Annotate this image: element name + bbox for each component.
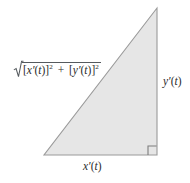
- y-exponent: 2: [95, 63, 99, 71]
- radical-sign-icon: [14, 60, 22, 77]
- radicand-expression: [x′(t)]2 + [y′(t)]2: [22, 62, 101, 77]
- plus-operator: +: [53, 64, 69, 76]
- right-triangle-shape: [44, 8, 157, 155]
- vertical-leg-label: y′(t): [163, 76, 182, 88]
- triangle-graphic: [0, 0, 190, 183]
- x-leg-close-paren: ): [98, 160, 102, 172]
- hypotenuse-label: [x′(t)]2 + [y′(t)]2: [14, 60, 101, 77]
- figure-container: [x′(t)]2 + [y′(t)]2 y′(t) x′(t): [0, 0, 190, 183]
- horizontal-leg-label: x′(t): [83, 161, 102, 173]
- y-leg-close-paren: ): [178, 75, 182, 87]
